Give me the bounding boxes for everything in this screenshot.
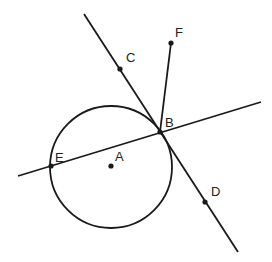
point-D [202, 199, 207, 204]
point-label-C: C [126, 50, 135, 65]
point-label-A: A [115, 149, 124, 164]
point-A [108, 163, 113, 168]
point-label-B: B [165, 115, 174, 130]
point-F [168, 40, 173, 45]
point-label-E: E [55, 150, 64, 165]
geometry-diagram: ABCDEF [0, 0, 272, 262]
point-label-F: F [175, 25, 183, 40]
point-C [117, 66, 122, 71]
point-label-D: D [211, 184, 220, 199]
point-E [48, 163, 53, 168]
point-B [157, 129, 162, 134]
diagram-canvas: ABCDEF [0, 0, 272, 262]
